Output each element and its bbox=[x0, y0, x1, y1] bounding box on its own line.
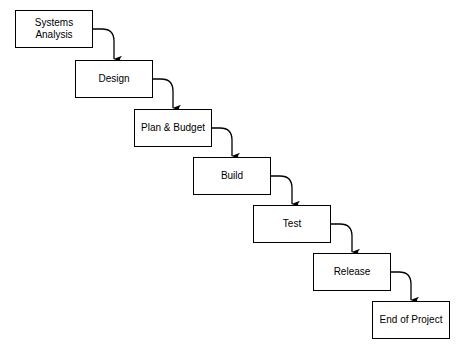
node-design[interactable]: Design bbox=[75, 60, 153, 98]
node-systems-analysis[interactable]: Systems Analysis bbox=[15, 10, 93, 48]
connector-design-to-plan-and-budget bbox=[153, 79, 173, 108]
node-label: Release bbox=[334, 266, 371, 278]
node-label: Systems Analysis bbox=[35, 17, 73, 41]
connector-release-to-end-of-project bbox=[391, 272, 411, 300]
node-label: Plan & Budget bbox=[141, 122, 205, 134]
node-label: Build bbox=[221, 170, 243, 182]
connector-test-to-release bbox=[331, 224, 352, 252]
node-build[interactable]: Build bbox=[193, 157, 271, 195]
node-release[interactable]: Release bbox=[313, 253, 391, 291]
connector-systems-analysis-to-design bbox=[93, 29, 114, 59]
node-label: Test bbox=[283, 218, 301, 230]
node-label: End of Project bbox=[380, 314, 443, 326]
node-test[interactable]: Test bbox=[253, 205, 331, 243]
node-plan-and-budget[interactable]: Plan & Budget bbox=[134, 109, 212, 147]
node-end-of-project[interactable]: End of Project bbox=[372, 301, 450, 339]
waterfall-diagram-canvas: Systems Analysis Design Plan & Budget Bu… bbox=[0, 0, 460, 352]
connector-build-to-test bbox=[271, 176, 292, 204]
node-label: Design bbox=[98, 73, 129, 85]
connector-plan-and-budget-to-build bbox=[212, 128, 232, 156]
